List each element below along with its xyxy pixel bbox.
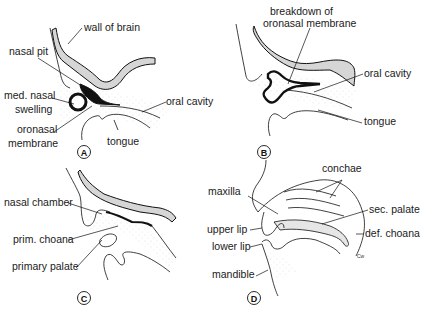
- panel-c: nasal chamber prim. choana primary palat…: [4, 168, 180, 305]
- panel-a: wall of brain nasal pit med. nasal swell…: [4, 21, 214, 159]
- leader-primary-palate: [76, 240, 102, 268]
- panel-b: breakdown of oronasal membrane oral cavi…: [236, 5, 412, 159]
- panel-b-tongue-contour: [268, 111, 348, 136]
- label-wall-of-brain: wall of brain: [83, 21, 140, 33]
- panel-d-label: D: [251, 294, 258, 304]
- label-membrane: membrane: [8, 137, 58, 149]
- label-swelling: swelling: [15, 103, 53, 115]
- label-mandible: mandible: [212, 268, 255, 280]
- label-sec-palate: sec. palate: [369, 203, 420, 215]
- label-tongue-b: tongue: [364, 115, 396, 127]
- diagram-canvas: wall of brain nasal pit med. nasal swell…: [0, 0, 421, 310]
- label-lower-lip: lower lip: [212, 240, 251, 252]
- panel-d-upper-lip: [262, 212, 284, 235]
- label-tongue-a: tongue: [107, 135, 139, 147]
- leader-tongue-b: [318, 110, 362, 123]
- panel-d: conchae maxilla sec. palate upper lip de…: [207, 160, 420, 305]
- label-conchae: conchae: [322, 162, 362, 174]
- panel-c-label: C: [81, 294, 88, 304]
- label-nasal-pit: nasal pit: [9, 45, 48, 57]
- label-oral-cavity-a: oral cavity: [166, 95, 214, 107]
- label-nasal-chamber: nasal chamber: [4, 196, 73, 208]
- leader-lower-lip: [250, 244, 262, 247]
- label-oronasal-membrane-b: oronasal membrane: [263, 17, 357, 29]
- panel-a-label: A: [81, 148, 88, 158]
- label-oronasal: oronasal: [17, 123, 57, 135]
- leader-upper-lip: [250, 228, 262, 230]
- panel-b-label: B: [261, 148, 268, 158]
- label-oral-cavity-b: oral cavity: [364, 67, 412, 79]
- panel-d-secondary-palate: [274, 220, 349, 246]
- leader-mandible: [256, 270, 268, 276]
- leader-maxilla: [248, 196, 278, 214]
- panel-d-conchae: [284, 189, 344, 216]
- panel-a-wall-of-brain: [52, 28, 155, 89]
- panel-d-lower-lip: [262, 238, 340, 254]
- panel-d-stipple: [262, 250, 300, 280]
- label-breakdown-of: breakdown of: [270, 5, 333, 17]
- leader-wall-of-brain: [68, 28, 82, 44]
- label-prim-choana: prim. choana: [13, 233, 74, 245]
- label-maxilla: maxilla: [208, 185, 241, 197]
- panel-a-tongue-mark: [114, 120, 118, 130]
- label-primary-palate: primary palate: [12, 260, 79, 272]
- panel-b-face-contour: [236, 24, 262, 81]
- label-med-nasal: med. nasal: [4, 89, 55, 101]
- leader-breakdown: [288, 28, 310, 84]
- label-upper-lip: upper lip: [207, 223, 247, 235]
- panel-a-medial-nasal-swelling: [70, 94, 86, 110]
- label-def-choana: def. choana: [365, 227, 420, 239]
- artist-signature: Cw: [357, 253, 365, 259]
